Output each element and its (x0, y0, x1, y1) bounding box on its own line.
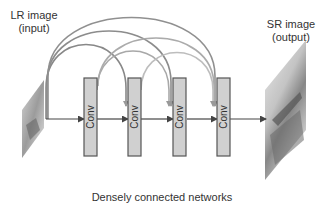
conv-block-3-label: Conv (174, 105, 185, 128)
conv-block-2-label: Conv (129, 105, 140, 128)
conv-block-4-label: Conv (218, 105, 229, 128)
conv-block-2: Conv (128, 78, 141, 156)
diagram-canvas: Conv Conv Conv Conv (0, 0, 324, 210)
conv-block-1: Conv (84, 78, 97, 156)
conv-block-1-label: Conv (85, 105, 96, 128)
diagram-caption: Densely connected networks (0, 191, 324, 204)
conv-block-3: Conv (173, 78, 186, 156)
conv-block-4: Conv (217, 78, 230, 156)
lr-input-image (22, 80, 44, 158)
sr-output-image (265, 40, 306, 180)
